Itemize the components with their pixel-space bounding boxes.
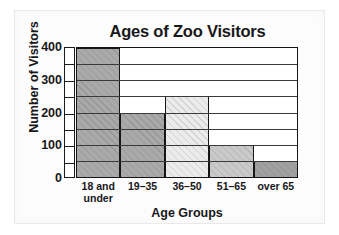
bar (254, 161, 297, 177)
y-tick-label: 300 (36, 74, 62, 86)
y-axis-tick-ladder (64, 47, 75, 178)
y-minor-tick (65, 163, 74, 164)
y-minor-tick (65, 114, 74, 115)
y-minor-tick (65, 81, 74, 82)
y-tick-label: 0 (36, 172, 62, 184)
plot-area (76, 47, 298, 178)
gridline (77, 161, 297, 162)
x-tick-label-line2: under (76, 193, 120, 205)
x-axis-tick-labels: 18 andunder19–3536–5051–65over 65 (76, 181, 298, 204)
gridline (77, 64, 297, 65)
x-tick-label: 19–35 (120, 181, 164, 204)
x-tick-label-line1: over 65 (257, 180, 294, 192)
x-tick-label: over 65 (254, 181, 298, 204)
y-minor-tick (65, 97, 74, 98)
x-tick-label: 18 andunder (76, 181, 120, 204)
chart-page: Ages of Zoo Visitors Number of Visitors … (0, 0, 339, 235)
y-minor-tick (65, 130, 74, 131)
x-axis-title: Age Groups (76, 206, 298, 220)
gridline (77, 145, 297, 146)
y-tick-label: 100 (36, 139, 62, 151)
gridline (77, 80, 297, 81)
gridline (77, 96, 297, 97)
y-tick-label: 400 (36, 41, 62, 53)
y-axis-tick-labels: 4003002001000 (36, 41, 62, 184)
gridline (77, 129, 297, 130)
y-tick-label: 200 (36, 107, 62, 119)
x-tick-label-line1: 51–65 (217, 180, 246, 192)
y-minor-tick (65, 146, 74, 147)
x-tick-label-line1: 19–35 (128, 180, 157, 192)
bar (165, 96, 209, 177)
x-tick-label-line1: 18 and (82, 180, 115, 192)
gridline (77, 113, 297, 114)
plot-inner (77, 48, 297, 177)
x-tick-label-line1: 36–50 (172, 180, 201, 192)
chart-title: Ages of Zoo Visitors (60, 22, 315, 41)
y-minor-tick (65, 64, 74, 65)
x-tick-label: 36–50 (165, 181, 209, 204)
x-tick-label: 51–65 (209, 181, 253, 204)
